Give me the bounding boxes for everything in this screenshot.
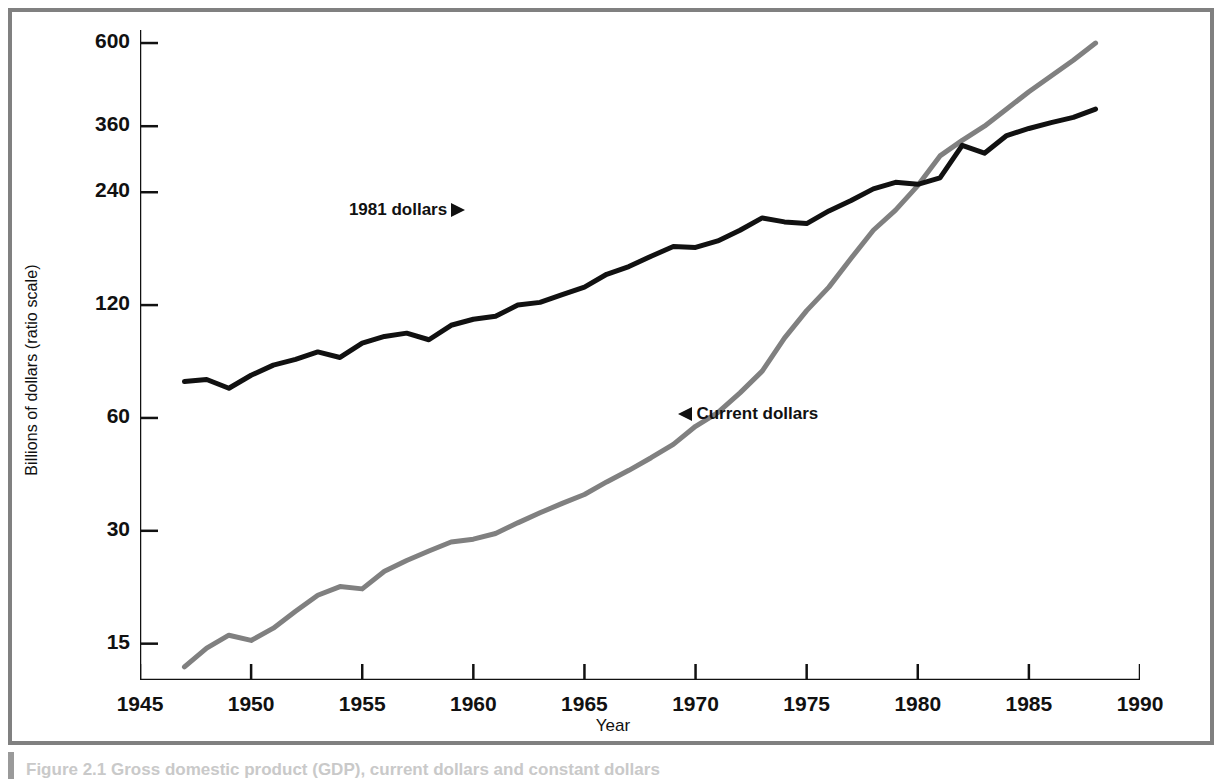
series-annotation-nominal-text: Current dollars — [696, 404, 818, 424]
y-axis-title-text: Billions of dollars (ratio scale) — [23, 264, 41, 475]
pointer-left-icon — [678, 407, 692, 421]
figure-container: Billions of dollars (ratio scale) 600360… — [0, 0, 1226, 779]
x-axis-ticks — [140, 664, 1140, 680]
y-tick-label: 600 — [68, 29, 130, 53]
y-axis-ticks — [140, 43, 158, 644]
y-tick-label: 120 — [68, 291, 130, 315]
x-tick-label: 1950 — [211, 692, 291, 716]
x-tick-label: 1960 — [433, 692, 513, 716]
plot-area — [140, 30, 1140, 680]
x-tick-label: 1990 — [1100, 692, 1180, 716]
x-axis-title-text: Year — [596, 716, 630, 735]
chart-svg — [140, 30, 1140, 680]
x-axis-title: Year — [0, 716, 1226, 736]
x-tick-label: 1965 — [544, 692, 624, 716]
y-tick-label: 15 — [68, 630, 130, 654]
y-tick-label: 360 — [68, 112, 130, 136]
y-axis-title: Billions of dollars (ratio scale) — [18, 180, 46, 560]
series-line — [184, 109, 1095, 388]
x-tick-label: 1970 — [656, 692, 736, 716]
pointer-right-icon — [451, 203, 465, 217]
series-annotation-nominal: Current dollars — [678, 404, 818, 424]
x-tick-label: 1955 — [322, 692, 402, 716]
x-tick-label: 1975 — [767, 692, 847, 716]
x-tick-label: 1985 — [989, 692, 1069, 716]
y-tick-label: 60 — [68, 404, 130, 428]
y-tick-label: 240 — [68, 178, 130, 202]
data-series-group — [184, 43, 1095, 667]
x-tick-label: 1980 — [878, 692, 958, 716]
axes — [140, 30, 1140, 680]
series-annotation-real: 1981 dollars — [349, 200, 465, 220]
caption-rule — [8, 752, 14, 779]
series-annotation-real-text: 1981 dollars — [349, 200, 447, 220]
x-tick-label: 1945 — [100, 692, 180, 716]
figure-caption: Figure 2.1 Gross domestic product (GDP),… — [26, 760, 1206, 779]
y-tick-label: 30 — [68, 517, 130, 541]
